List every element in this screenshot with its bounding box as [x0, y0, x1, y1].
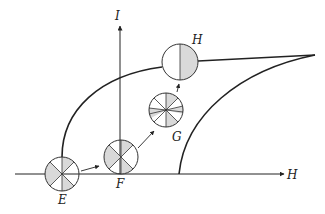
y-axis-label: I [114, 9, 120, 23]
state-label-f: F [115, 177, 125, 191]
arrow-f-to-g [138, 131, 154, 148]
state-label-h: H [191, 33, 203, 47]
domain-state-f [104, 140, 138, 174]
arrow-e-to-f [81, 166, 99, 171]
inner-curve [179, 55, 315, 174]
domain-state-g [149, 93, 184, 127]
magnetization-curve [62, 67, 162, 157]
magnetization-diagram: H I E F G [0, 0, 325, 214]
arrow-g-to-h [177, 84, 179, 92]
state-label-e: E [57, 193, 67, 207]
state-label-g: G [172, 130, 182, 144]
domain-state-h [162, 44, 198, 80]
x-axis-label: H [286, 168, 298, 182]
saturation-line [198, 55, 315, 61]
